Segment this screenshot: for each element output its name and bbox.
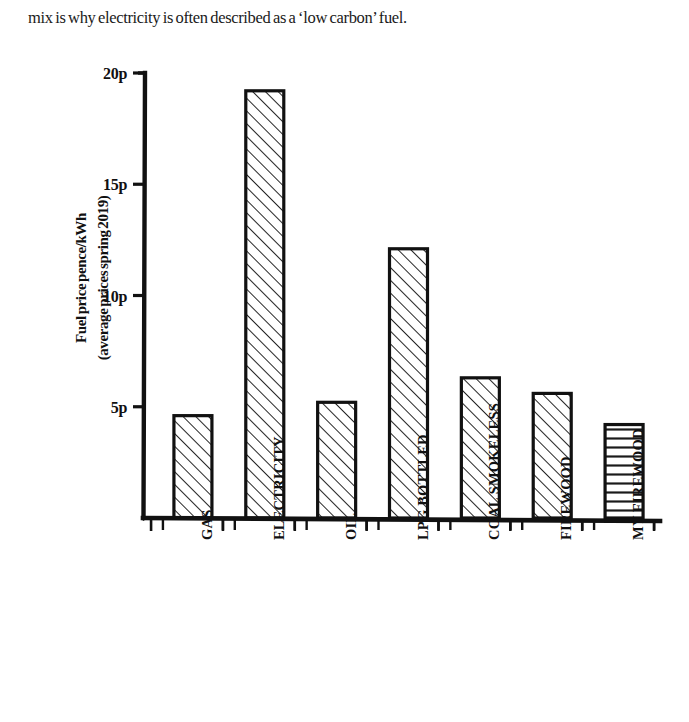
bar-oil — [318, 402, 356, 518]
chart-canvas: 5p10p15p20p — [0, 56, 689, 722]
bar-gas — [174, 416, 212, 518]
x-axis-label-lpg-bottled: LPG BOTTLED — [415, 434, 432, 540]
page-paragraph: mix is why electricity is often describe… — [28, 6, 668, 30]
x-axis-label-my-firewood: MY FIREWOOD — [630, 428, 647, 540]
x-axis-label-oil: OIL — [343, 513, 360, 540]
x-axis-label-gas: GAS — [199, 510, 216, 540]
y-axis-tick-label: 5p — [111, 399, 128, 417]
x-axis-label-firewood: FIREWOOD — [558, 456, 575, 540]
y-axis-tick-label: 10p — [103, 288, 127, 306]
x-axis-label-electricity: ELECTRICITY — [271, 436, 288, 540]
y-axis-ticks: 5p10p15p20p — [103, 65, 145, 417]
y-axis-tick-label: 15p — [103, 176, 127, 194]
x-axis-label-coal-smokeless: COAL SMOKELESS — [486, 403, 503, 540]
bars-group — [174, 91, 643, 518]
y-axis-tick-label: 20p — [103, 65, 127, 83]
bar-chart-figure: Fuel price pence/kWh (average prices spr… — [0, 56, 689, 722]
